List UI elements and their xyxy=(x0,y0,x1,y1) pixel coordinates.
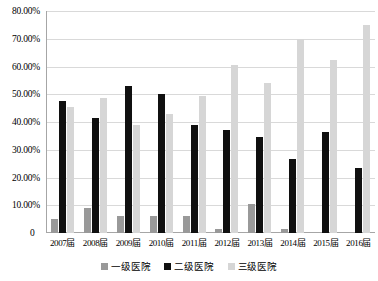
x-axis-tick-label: 2008届 xyxy=(79,236,112,249)
bar xyxy=(330,60,337,233)
bar-group xyxy=(342,11,375,233)
bar xyxy=(92,118,99,233)
bar-group xyxy=(79,11,112,233)
bar xyxy=(191,125,198,233)
x-axis-tick-label: 2014届 xyxy=(276,236,309,249)
bar-group xyxy=(276,11,309,233)
bar xyxy=(256,137,263,233)
y-axis-tick-label: 30.00% xyxy=(12,145,40,155)
bar-group xyxy=(112,11,145,233)
bar xyxy=(322,132,329,233)
bar xyxy=(264,83,271,233)
bar xyxy=(231,65,238,233)
bar xyxy=(281,229,288,233)
x-axis-tick-label: 2007届 xyxy=(46,236,79,249)
bars-layer xyxy=(46,11,375,233)
y-axis-zero-label: 0 xyxy=(30,228,35,238)
legend-swatch-icon xyxy=(101,263,108,270)
bar xyxy=(117,216,124,233)
bar xyxy=(363,25,370,233)
bar xyxy=(183,216,190,233)
y-axis-tick-label: 60.00% xyxy=(12,62,40,72)
bar-group xyxy=(46,11,79,233)
bar xyxy=(355,168,362,233)
bar xyxy=(59,101,66,233)
bar xyxy=(166,114,173,233)
legend-item[interactable]: 一级医院 xyxy=(101,259,150,273)
legend: 一级医院二级医院三级医院 xyxy=(0,259,378,273)
bar-chart: 80.00%70.00%60.00%50.00%40.00%30.00%20.0… xyxy=(0,0,378,281)
bar xyxy=(223,130,230,233)
bar xyxy=(248,204,255,233)
bar xyxy=(199,96,206,233)
x-axis-tick-label: 2010届 xyxy=(145,236,178,249)
bar-group xyxy=(178,11,211,233)
x-axis-tick-label: 2013届 xyxy=(243,236,276,249)
legend-label: 一级医院 xyxy=(111,259,150,273)
y-axis-tick-label: 20.00% xyxy=(12,173,40,183)
legend-label: 三级医院 xyxy=(238,259,277,273)
x-axis-tick-label: 2015届 xyxy=(309,236,342,249)
plot-area xyxy=(46,11,375,233)
legend-swatch-icon xyxy=(228,263,235,270)
bar-group xyxy=(309,11,342,233)
x-axis-tick-label: 2016届 xyxy=(342,236,375,249)
legend-label: 二级医院 xyxy=(174,259,213,273)
bar xyxy=(84,208,91,233)
legend-item[interactable]: 二级医院 xyxy=(164,259,213,273)
bar xyxy=(158,94,165,233)
bar-group xyxy=(211,11,244,233)
y-axis-tick-label: 80.00% xyxy=(12,6,40,16)
x-axis: 2007届2008届2009届2010届2011届2012届2013届2014届… xyxy=(46,236,375,249)
x-axis-tick-label: 2011届 xyxy=(178,236,211,249)
y-axis-tick-label: 10.00% xyxy=(12,200,40,210)
y-axis: 80.00%70.00%60.00%50.00%40.00%30.00%20.0… xyxy=(0,0,44,244)
x-axis-tick-label: 2012届 xyxy=(211,236,244,249)
y-axis-tick-label: 50.00% xyxy=(12,89,40,99)
bar xyxy=(100,98,107,233)
bar xyxy=(51,219,58,233)
legend-item[interactable]: 三级医院 xyxy=(228,259,277,273)
bar xyxy=(67,107,74,233)
y-axis-tick-label: 40.00% xyxy=(12,117,40,127)
legend-swatch-icon xyxy=(164,263,171,270)
bar xyxy=(133,125,140,233)
bar-group xyxy=(145,11,178,233)
y-axis-tick-label: 70.00% xyxy=(12,34,40,44)
bar xyxy=(289,159,296,233)
x-axis-tick-label: 2009届 xyxy=(112,236,145,249)
bar xyxy=(215,229,222,233)
bar xyxy=(150,216,157,233)
bar-group xyxy=(243,11,276,233)
bar xyxy=(297,39,304,233)
bar xyxy=(125,86,132,233)
